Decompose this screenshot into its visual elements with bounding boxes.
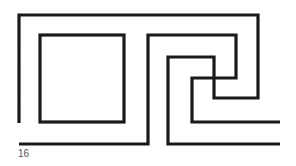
page-number: 16: [18, 148, 29, 159]
maze-diagram: [0, 0, 296, 166]
middle-spiral-path: [19, 35, 280, 144]
inner-square: [40, 35, 124, 122]
